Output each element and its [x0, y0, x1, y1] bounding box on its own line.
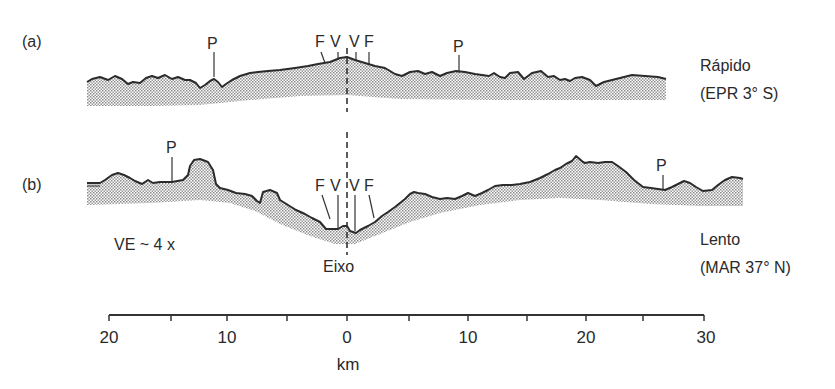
fault-marker-a-left: F [315, 33, 325, 50]
panel-a-label: (a) [22, 33, 42, 50]
fault-marker-line [369, 195, 374, 218]
scale-tick-label: 20 [577, 328, 596, 347]
panel-b-subtitle: (MAR 37° N) [700, 259, 791, 276]
scale-unit-label: km [337, 355, 360, 374]
panel-a-title: Rápido [700, 57, 751, 74]
panel-b-label: (b) [22, 176, 42, 193]
volcano-marker-b-right: V [349, 177, 360, 194]
scale-tick-label: 20 [100, 328, 119, 347]
vertical-exaggeration-label: VE ~ 4 x [114, 236, 175, 253]
volcano-marker-a-right: V [349, 33, 360, 50]
scale-tick-label: 10 [459, 328, 478, 347]
scale-tick-label: 30 [697, 328, 716, 347]
profile-a-fill [87, 57, 666, 106]
fault-marker-b-left: F [315, 177, 325, 194]
ridge-profiles-figure: (a) P F V V F P Rápido (EPR 3° S) (b) P … [0, 0, 835, 389]
volcano-marker-b-left: V [330, 177, 341, 194]
scale-tick-label: 10 [218, 328, 237, 347]
fault-marker-b-right: F [364, 177, 374, 194]
fault-marker-a-right: F [364, 33, 374, 50]
plate-marker-b-right: P [656, 157, 667, 174]
panel-a: (a) P F V V F P Rápido (EPR 3° S) [22, 33, 778, 112]
panel-b-title: Lento [700, 231, 740, 248]
scale-tick-label: 0 [342, 328, 351, 347]
profile-b-fill [87, 156, 743, 244]
fault-marker-line [321, 52, 325, 63]
axis-label: Eixo [323, 258, 354, 275]
fault-marker-line [322, 195, 330, 219]
plate-marker-a-right: P [453, 38, 464, 55]
scale-bar: 20 10 0 10 20 30 km [100, 315, 716, 374]
panel-a-subtitle: (EPR 3° S) [700, 85, 778, 102]
volcano-marker-a-left: V [330, 33, 341, 50]
plate-marker-a-left: P [207, 35, 218, 52]
plate-marker-b-left: P [166, 139, 177, 156]
panel-b: (b) P F V V F P VE ~ 4 x Eixo Lento (MAR… [22, 132, 791, 276]
